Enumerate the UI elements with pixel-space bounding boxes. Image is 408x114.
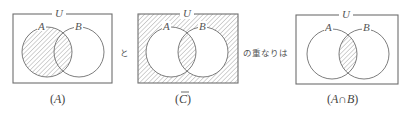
caption-c-complement: (C) [175,92,191,106]
connector-and: と [120,48,129,58]
connector-overlap-is: の重なりは [243,48,288,58]
universe-label: U [55,7,64,19]
universe-label: U [183,7,192,19]
venn-diagram-c-complement: U A B (C) [138,7,238,106]
venn-diagram-a-cap-b: U A B (A∩B) [296,8,398,106]
caption-a-cap-b: (A∩B) [327,92,358,106]
set-label-b: B [363,21,370,33]
set-label-a: A [162,20,170,32]
venn-diagram-figure: U A B (A) と U A B (C) の重なりは U A [0,0,408,114]
universe-label: U [342,8,351,20]
set-label-a: A [324,21,332,33]
set-label-a: A [37,20,45,32]
caption-a: (A) [50,92,65,106]
set-label-b: B [199,20,206,32]
set-label-b: B [75,20,82,32]
venn-diagram-a: U A B (A) [13,7,112,106]
